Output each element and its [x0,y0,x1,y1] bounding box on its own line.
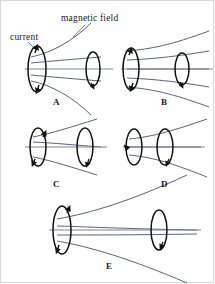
panel-a-current-arrow-top [35,47,37,53]
panel-d [123,119,207,177]
panel-a-right-current-arrow [91,83,93,87]
choice-label-b: B [161,97,168,107]
magnetic-field-leader [73,25,85,37]
annotation-magnetic-field: magnetic field [61,13,118,23]
panel-e-field-lines [57,175,197,283]
panel-a-current-arrow-bottom [37,85,39,91]
annotation-current: current [10,32,38,42]
choice-label-d: D [161,179,168,189]
panel-e-current-arrow-bottom [57,245,59,251]
panel-c [25,119,107,175]
choice-label-a: A [53,97,60,107]
panel-b-current-arrow-bottom [131,83,133,89]
diagram-canvas [1,1,215,284]
panel-d-field-lines [129,119,207,177]
panel-e [49,175,201,283]
panel-e-right-current-arrow [161,242,163,247]
choice-label-e: E [106,261,113,271]
choice-label-c: C [53,179,60,189]
panel-b [121,31,213,107]
